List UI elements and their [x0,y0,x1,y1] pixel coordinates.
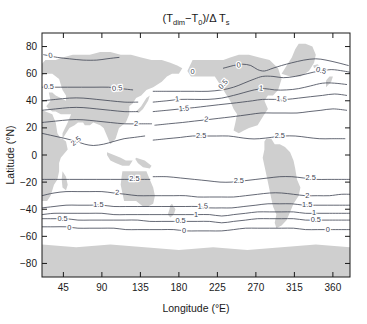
contour-label-1.5: 1.5 [197,201,208,211]
y-tick-label: 20 [26,122,38,133]
contour-label-0: 0 [182,226,186,235]
contour-label-0.5: 0.5 [57,214,67,223]
x-tick-label: 360 [325,282,342,293]
y-axis-label: Latitude (°N) [4,125,16,184]
title-sub-dim: dim [173,18,185,27]
contour-label-0: 0 [326,225,330,234]
contour-label-0.5: 0.5 [44,82,54,91]
contour-map-figure: (Tdim−T0)/Δ Ts 000.50.50.50.500000.50.50… [0,0,367,324]
contour-label-2.5: 2.5 [234,176,244,185]
chart-title: (Tdim−T0)/Δ Ts [163,12,230,27]
title-close: )/Δ T [202,12,226,24]
x-tick-label: 45 [58,282,70,293]
y-tick-label: 0 [31,150,37,161]
contour-label-0.5: 0.5 [311,215,321,224]
contour-label-2.5: 2.5 [129,174,139,183]
figure-container: (Tdim−T0)/Δ Ts 000.50.50.50.500000.50.50… [0,0,367,324]
contour-label-1.5: 1.5 [302,200,312,209]
x-tick-label: 315 [286,282,303,293]
x-tick-label: 135 [132,282,149,293]
contour-label-1.5: 1.5 [276,94,287,104]
x-tick-label: 225 [209,282,226,293]
y-tick-label: −60 [20,231,37,242]
x-axis-label: Longitude (°E) [162,302,229,314]
contour-label-0.5: 0.5 [112,83,123,93]
svg-text:(Tdim−T0)/Δ Ts: (Tdim−T0)/Δ Ts [163,12,230,27]
plot-area: 000.50.50.50.500000.50.50.50.511111.51.5… [11,33,350,293]
x-tick-label: 270 [248,282,265,293]
contour-label-1.5: 1.5 [178,103,189,113]
contour-label-2: 2 [305,191,309,200]
contour-label-2.5: 2.5 [275,131,285,140]
title-minus: −T [185,12,198,24]
y-tick-label: 60 [26,68,38,79]
x-tick-label: 90 [96,282,108,293]
y-tick-label: 40 [26,95,38,106]
contour-label-1: 1 [194,210,198,219]
y-tick-label: −80 [20,258,37,269]
contour-label-0.5: 0.5 [175,216,185,225]
title-sub-s: s [226,18,230,27]
title-open: (T [163,12,174,24]
y-tick-label: 80 [26,41,38,52]
contour-label-0: 0 [67,223,71,232]
contour-label-2.5: 2.5 [196,131,206,140]
x-tick-label: 180 [171,282,188,293]
contour-label-2: 2 [204,115,209,124]
contour-label-1: 1 [175,94,180,103]
contour-label-2: 2 [115,188,120,197]
landmass-antarctica [42,245,350,278]
contour-label-1.5: 1.5 [93,200,103,209]
y-tick-label: −40 [20,204,37,215]
y-tick-label: −20 [20,177,37,188]
contour-label-2.5: 2.5 [306,173,316,182]
contour-label-2: 2 [134,119,138,128]
contour-label-0: 0 [191,67,195,76]
